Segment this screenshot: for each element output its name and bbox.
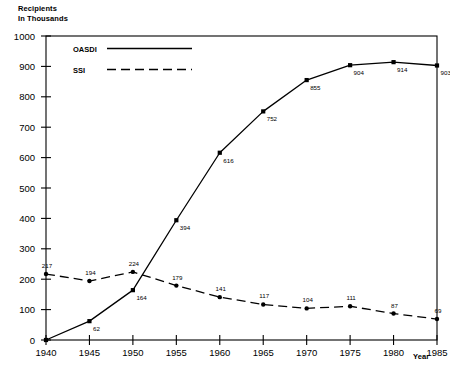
plot-background — [46, 36, 437, 340]
data-value-label: 87 — [391, 302, 398, 309]
data-value-label: 164 — [136, 294, 147, 301]
x-tick-label: 1945 — [79, 347, 100, 358]
data-point-marker — [44, 338, 48, 342]
y-tick-label: 500 — [19, 183, 35, 194]
data-point-marker — [261, 109, 265, 113]
data-point-marker — [131, 270, 135, 274]
data-value-label: 69 — [435, 307, 442, 314]
x-tick-label: 1955 — [166, 347, 187, 358]
chart-figure: Recipients In Thousands Year 01002003004… — [0, 0, 450, 372]
data-point-marker — [174, 218, 178, 222]
x-tick-label: 1965 — [253, 347, 274, 358]
data-point-marker — [261, 302, 265, 306]
data-point-marker — [174, 283, 178, 287]
y-tick-label: 600 — [19, 152, 35, 163]
data-value-label: 217 — [42, 262, 53, 269]
y-axis-tick-labels: 01002003004005006007008009001000 — [14, 31, 35, 346]
data-value-label: 903 — [441, 69, 450, 76]
y-tick-label: 200 — [19, 274, 35, 285]
y-tick-label: 1000 — [14, 31, 35, 42]
y-tick-label: 900 — [19, 61, 35, 72]
y-tick-label: 100 — [19, 304, 35, 315]
legend-label-ssi: SSI — [73, 66, 85, 75]
data-value-label: 914 — [397, 66, 408, 73]
data-value-label: 752 — [267, 115, 278, 122]
y-tick-label: 800 — [19, 91, 35, 102]
data-point-marker — [218, 295, 222, 299]
y-tick-label: 300 — [19, 243, 35, 254]
legend-label-oasdi: OASDI — [73, 45, 97, 54]
x-tick-label: 1970 — [296, 347, 317, 358]
x-tick-label: 1985 — [426, 347, 447, 358]
data-value-label: 111 — [346, 294, 356, 301]
y-tick-label: 0 — [30, 335, 35, 346]
x-tick-label: 1960 — [209, 347, 230, 358]
data-value-label: 104 — [303, 296, 314, 303]
data-point-marker — [218, 151, 222, 155]
data-value-label: 394 — [180, 224, 191, 231]
data-point-marker — [348, 63, 352, 67]
data-point-marker — [131, 288, 135, 292]
data-value-label: 904 — [354, 69, 365, 76]
x-tick-label: 1980 — [383, 347, 404, 358]
data-point-marker — [391, 60, 395, 64]
data-point-marker — [304, 306, 308, 310]
data-point-marker — [435, 63, 439, 67]
data-value-label: 141 — [216, 285, 227, 292]
data-value-label: 179 — [172, 274, 183, 281]
data-point-marker — [391, 311, 395, 315]
data-point-marker — [44, 272, 48, 276]
data-value-label: 117 — [259, 292, 269, 299]
data-point-marker — [435, 317, 439, 321]
x-tick-label: 1940 — [35, 347, 56, 358]
line-chart-plot: 01002003004005006007008009001000 1940194… — [0, 0, 450, 372]
data-value-label: 194 — [85, 269, 96, 276]
data-point-marker — [87, 279, 91, 283]
x-tick-label: 1975 — [340, 347, 361, 358]
data-point-marker — [348, 304, 352, 308]
data-value-label: 855 — [310, 84, 321, 91]
x-axis-tick-labels: 1940194519501955196019651970197519801985 — [35, 347, 447, 358]
y-tick-label: 400 — [19, 213, 35, 224]
data-value-label: 616 — [223, 157, 234, 164]
data-point-marker — [87, 319, 91, 323]
data-value-label: 224 — [129, 260, 140, 267]
data-point-marker — [305, 78, 309, 82]
y-tick-label: 700 — [19, 122, 35, 133]
data-value-label: 62 — [93, 325, 100, 332]
x-tick-label: 1950 — [122, 347, 143, 358]
